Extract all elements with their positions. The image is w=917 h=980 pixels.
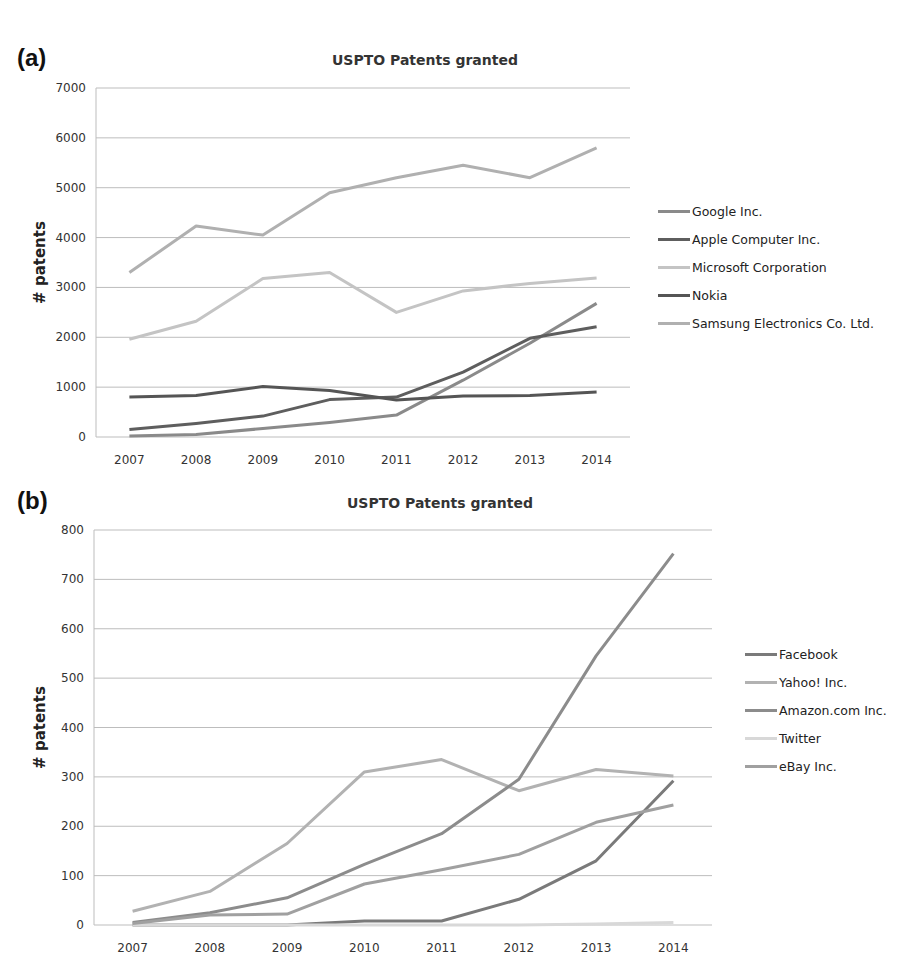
x-tick-label: 2012 (448, 453, 479, 467)
x-tick-label: 2008 (181, 453, 212, 467)
legend-item: Twitter (745, 724, 887, 752)
series-line (133, 554, 674, 923)
y-tick-label: 6000 (55, 131, 86, 145)
y-tick-label: 0 (76, 918, 84, 932)
legend-label: Nokia (692, 288, 727, 303)
y-tick-label: 600 (61, 622, 84, 636)
y-tick-label: 200 (61, 819, 84, 833)
y-tick-label: 5000 (55, 181, 86, 195)
y-tick-label: 1000 (55, 380, 86, 394)
chart-b-plot: 0100200300400500600700800200720082009201… (0, 0, 917, 980)
y-tick-label: 4000 (55, 231, 86, 245)
y-tick-label: 800 (61, 523, 84, 537)
legend-swatch-icon (745, 765, 777, 768)
legend-swatch-icon (658, 238, 690, 241)
legend-item: eBay Inc. (745, 752, 887, 780)
x-tick-label: 2010 (314, 453, 345, 467)
legend-swatch-icon (658, 322, 690, 325)
chart-b-title: USPTO Patents granted (315, 495, 565, 511)
series-line (133, 760, 674, 912)
y-tick-label: 3000 (55, 280, 86, 294)
legend-label: Facebook (779, 647, 838, 662)
legend-label: Twitter (779, 731, 821, 746)
legend-item: Samsung Electronics Co. Ltd. (658, 309, 874, 337)
x-tick-label: 2009 (248, 453, 279, 467)
x-tick-label: 2007 (117, 941, 148, 955)
x-tick-label: 2009 (272, 941, 303, 955)
legend-swatch-icon (658, 294, 690, 297)
series-line (129, 273, 596, 340)
y-tick-label: 0 (78, 430, 86, 444)
y-axis-label: # patents (31, 686, 49, 769)
x-tick-label: 2010 (349, 941, 380, 955)
y-tick-label: 400 (61, 721, 84, 735)
y-tick-label: 100 (61, 869, 84, 883)
legend-label: eBay Inc. (779, 759, 837, 774)
x-tick-label: 2008 (195, 941, 226, 955)
series-line (129, 303, 596, 436)
legend-label: Apple Computer Inc. (692, 232, 820, 247)
series-line (133, 923, 674, 926)
x-tick-label: 2013 (581, 941, 612, 955)
chart-a-legend: Google Inc.Apple Computer Inc.Microsoft … (658, 197, 874, 337)
x-tick-label: 2014 (658, 941, 689, 955)
y-tick-label: 500 (61, 671, 84, 685)
legend-swatch-icon (658, 266, 690, 269)
legend-item: Yahoo! Inc. (745, 668, 887, 696)
series-line (129, 387, 596, 401)
legend-item: Amazon.com Inc. (745, 696, 887, 724)
y-axis-label: # patents (31, 221, 49, 304)
legend-label: Yahoo! Inc. (779, 675, 847, 690)
legend-swatch-icon (745, 653, 777, 656)
panel-b-label: (b) (17, 487, 48, 515)
legend-swatch-icon (745, 709, 777, 712)
legend-item: Facebook (745, 640, 887, 668)
x-tick-label: 2012 (504, 941, 535, 955)
series-line (129, 148, 596, 273)
legend-label: Amazon.com Inc. (779, 703, 887, 718)
legend-item: Google Inc. (658, 197, 874, 225)
legend-label: Google Inc. (692, 204, 763, 219)
y-tick-label: 7000 (55, 81, 86, 95)
x-tick-label: 2011 (381, 453, 412, 467)
series-line (133, 805, 674, 924)
x-tick-label: 2014 (581, 453, 612, 467)
x-tick-label: 2011 (426, 941, 457, 955)
chart-b-legend: FacebookYahoo! Inc.Amazon.com Inc.Twitte… (745, 640, 887, 780)
legend-item: Apple Computer Inc. (658, 225, 874, 253)
series-line (133, 781, 674, 925)
series-line (129, 327, 596, 430)
legend-label: Microsoft Corporation (692, 260, 827, 275)
legend-swatch-icon (745, 681, 777, 684)
legend-item: Nokia (658, 281, 874, 309)
legend-swatch-icon (745, 737, 777, 740)
x-tick-label: 2013 (515, 453, 546, 467)
y-tick-label: 2000 (55, 330, 86, 344)
legend-swatch-icon (658, 210, 690, 213)
chart-a-plot: 0100020003000400050006000700020072008200… (0, 0, 917, 980)
panel-a-label: (a) (17, 44, 46, 72)
y-tick-label: 700 (61, 572, 84, 586)
y-tick-label: 300 (61, 770, 84, 784)
x-tick-label: 2007 (114, 453, 145, 467)
chart-a-title: USPTO Patents granted (300, 52, 550, 68)
legend-item: Microsoft Corporation (658, 253, 874, 281)
legend-label: Samsung Electronics Co. Ltd. (692, 316, 874, 331)
